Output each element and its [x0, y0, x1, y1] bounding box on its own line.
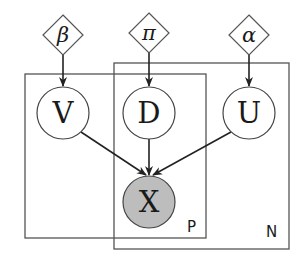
param-alpha-label: α — [242, 23, 256, 47]
edge-u-x — [153, 132, 231, 175]
node-d: D — [123, 87, 175, 139]
node-u-label: U — [237, 96, 261, 130]
graphical-model-diagram: P N β π α V D U X — [0, 0, 302, 264]
param-beta-label: β — [56, 23, 69, 47]
node-v: V — [37, 87, 89, 139]
param-beta: β — [43, 15, 83, 55]
node-x-observed: X — [123, 176, 175, 228]
node-d-label: D — [137, 96, 160, 130]
node-u: U — [223, 87, 275, 139]
param-alpha: α — [229, 15, 269, 55]
node-v-label: V — [52, 96, 75, 130]
plate-n-label: N — [266, 223, 277, 241]
param-pi: π — [129, 13, 169, 53]
plate-p-label: P — [187, 218, 196, 236]
node-x-label: X — [139, 185, 160, 219]
param-pi-label: π — [141, 21, 157, 45]
